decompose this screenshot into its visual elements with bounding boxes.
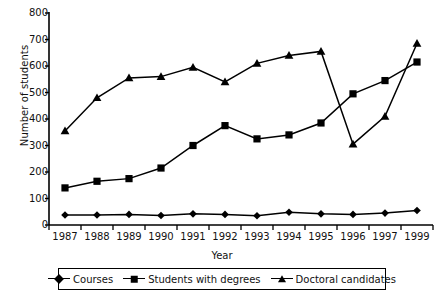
data-point-square [317,119,324,126]
legend-item[interactable]: Students with degrees [123,273,260,285]
series-line [65,62,417,188]
chart-container: Number of students 010020030040050060070… [0,0,444,297]
data-point-square [61,184,68,191]
data-point-triangle [413,39,422,47]
data-point-square [93,178,100,185]
series-students-with-degrees [65,62,417,188]
data-point-square [253,135,260,142]
data-point-diamond [413,207,421,215]
x-tick-label: 1999 [397,231,437,243]
data-point-diamond [93,211,101,219]
legend-diamond-icon [48,273,70,285]
data-point-triangle [93,93,102,101]
data-point-square [189,142,196,149]
data-point-diamond [125,211,133,219]
data-point-diamond [61,211,69,219]
x-axis-tick-labels: 1987198819891990199119921993199419951996… [0,231,444,247]
legend-label: Students with degrees [148,274,260,285]
data-point-diamond [317,210,325,218]
data-point-square [125,175,132,182]
data-point-diamond [221,211,229,219]
legend-label: Doctoral candidates [296,274,396,285]
data-point-diamond [189,210,197,218]
data-point-square [221,122,228,129]
legend-square-icon [123,273,145,285]
legend-item[interactable]: Courses [48,273,113,285]
data-point-diamond [253,212,261,220]
chart-legend: CoursesStudents with degreesDoctoral can… [58,268,386,290]
legend-triangle-icon [271,273,293,285]
data-point-diamond [157,212,165,220]
series-line [65,210,417,215]
data-point-triangle [189,63,198,71]
data-point-diamond [381,209,389,217]
data-point-square [285,131,292,138]
legend-label: Courses [73,274,113,285]
series-doctoral-candidates [65,43,417,144]
data-point-triangle [221,78,230,86]
data-point-diamond [349,211,357,219]
data-point-diamond [285,208,293,216]
data-point-square [349,90,356,97]
data-point-square [157,164,164,171]
series-line [65,43,417,144]
series-courses [65,210,417,215]
legend-item[interactable]: Doctoral candidates [271,273,396,285]
data-point-square [381,77,388,84]
data-point-triangle [317,47,326,55]
data-point-square [413,58,420,65]
x-axis-title: Year [0,250,444,261]
data-point-triangle [381,112,390,120]
